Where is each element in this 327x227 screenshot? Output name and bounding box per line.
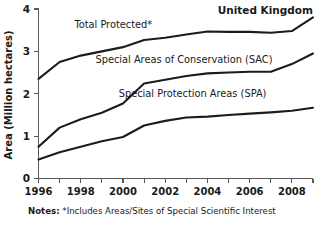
series-inline-label: Special Areas of Conservation (SAC) xyxy=(96,54,273,65)
y-tick-label: 0 xyxy=(23,172,30,184)
y-axis-ticks: 01234 xyxy=(23,3,39,185)
series-inline-label: Total Protected* xyxy=(73,19,152,30)
series-line xyxy=(39,53,314,146)
series-line xyxy=(39,108,314,160)
x-tick-label: 1996 xyxy=(25,186,53,197)
y-tick-label: 2 xyxy=(23,88,30,100)
y-tick-label: 3 xyxy=(23,45,30,57)
series-inline-label: Special Protection Areas (SPA) xyxy=(119,88,267,99)
x-tick-label: 2000 xyxy=(109,186,137,197)
footnote-label: Notes: xyxy=(28,206,60,216)
chart-title: United Kingdom xyxy=(218,4,313,16)
chart-container: United Kingdom Area (Million hectares) 0… xyxy=(0,0,327,227)
x-tick-label: 2006 xyxy=(236,186,264,197)
y-tick-label: 4 xyxy=(23,3,30,15)
x-axis-ticks: 1996199820002002200420062008 xyxy=(25,179,313,197)
y-tick-label: 1 xyxy=(23,130,30,142)
x-tick-label: 1998 xyxy=(67,186,95,197)
x-tick-label: 2002 xyxy=(151,186,179,197)
x-tick-label: 2008 xyxy=(278,186,306,197)
footnote-text: *Includes Areas/Sites of Special Scienti… xyxy=(62,206,275,216)
y-axis-title: Area (Million hectares) xyxy=(3,31,14,160)
line-chart-plot: United Kingdom Area (Million hectares) 0… xyxy=(0,0,327,227)
chart-footnote: Notes: *Includes Areas/Sites of Special … xyxy=(28,206,327,217)
x-tick-label: 2004 xyxy=(194,186,222,197)
